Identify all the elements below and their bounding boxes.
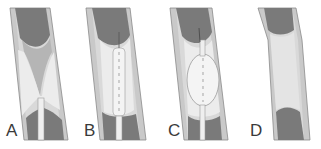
panel-d: D: [246, 0, 321, 149]
panel-c: C: [162, 0, 242, 149]
panel-a: A: [0, 0, 80, 149]
panel-label-a: A: [6, 121, 17, 141]
panel-label-c: C: [168, 121, 180, 141]
panel-label-d: D: [250, 121, 262, 141]
panel-label-b: B: [84, 121, 95, 141]
panel-b: B: [80, 0, 160, 149]
